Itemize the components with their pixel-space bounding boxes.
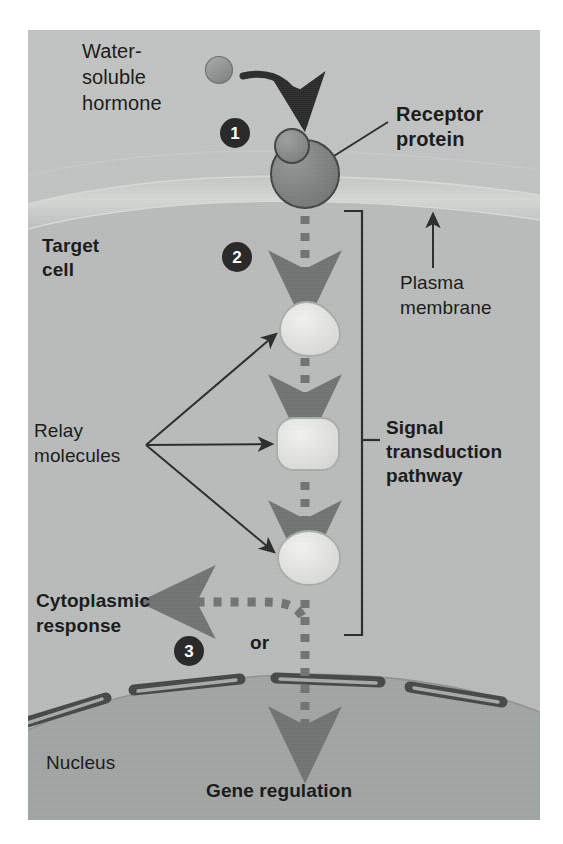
step-badge-3: 3: [174, 636, 204, 666]
cytoplasmic-response-label-line1: Cytoplasmic: [36, 588, 150, 613]
hormone-label: Water- soluble hormone: [82, 38, 162, 116]
target-cell-label-line1: Target: [42, 234, 99, 258]
hormone-label-line3: hormone: [82, 90, 162, 116]
pathway-label-line1: Signal: [386, 416, 502, 440]
relay-molecules-label-line1: Relay: [34, 418, 120, 443]
step-badge-2: 2: [222, 242, 252, 272]
hormone-label-line1: Water-: [82, 38, 162, 64]
target-cell-label: Target cell: [42, 234, 99, 282]
hormone-molecule: [206, 57, 233, 84]
relay-leader-arrow-2: [146, 444, 272, 445]
step-badge-1-number: 1: [230, 125, 239, 142]
step-badge-2-number: 2: [232, 249, 241, 266]
plasma-membrane-label: Plasma membrane: [400, 270, 492, 320]
or-label: or: [250, 632, 269, 654]
receptor-protein-label-line2: protein: [396, 127, 484, 152]
signal-transduction-pathway-label: Signal transduction pathway: [386, 416, 502, 488]
target-cell-label-line2: cell: [42, 258, 99, 282]
nucleus-label: Nucleus: [46, 752, 115, 774]
gene-regulation-label: Gene regulation: [206, 780, 352, 802]
step-badge-1: 1: [220, 118, 250, 148]
receptor-protein-label-line1: Receptor: [396, 102, 484, 127]
relay-molecules-label-line2: molecules: [34, 443, 120, 468]
hormone-label-line2: soluble: [82, 64, 162, 90]
cell-signaling-figure: Water- soluble hormone Receptor protein …: [28, 30, 540, 820]
plasma-membrane-label-line1: Plasma: [400, 270, 492, 295]
pathway-label-line2: transduction: [386, 440, 502, 464]
cytoplasmic-response-label-line2: response: [36, 613, 150, 638]
relay-molecule-2: [277, 418, 339, 470]
plasma-membrane-label-line2: membrane: [400, 295, 492, 320]
relay-molecules-label: Relay molecules: [34, 418, 120, 468]
relay-molecule-3: [278, 531, 340, 585]
receptor-protein-label: Receptor protein: [396, 102, 484, 152]
receptor-protein-binding-site: [275, 129, 309, 163]
diagram-canvas: Water- soluble hormone Receptor protein …: [0, 0, 563, 844]
cytoplasmic-response-label: Cytoplasmic response: [36, 588, 150, 638]
step-badge-3-number: 3: [184, 643, 193, 660]
pathway-label-line3: pathway: [386, 464, 502, 488]
